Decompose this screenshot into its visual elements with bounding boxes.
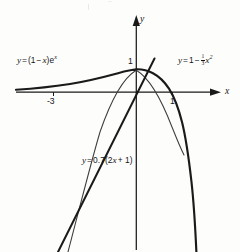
equation-label-line: y=0.7(2x+ 1) xyxy=(82,156,134,165)
equation-remainder: + 1) xyxy=(117,155,134,165)
math-figure: y x -3 1 1 y=(1−x)ex y=1−13x2 y=0.7(2x+ … xyxy=(0,0,240,252)
equation-label-parabola: y=1−13x2 xyxy=(178,54,213,66)
equation-minus: − xyxy=(194,55,201,65)
equation-exponent: x xyxy=(54,54,57,60)
equation-equals: = xyxy=(21,55,28,65)
x-tick-label-minus3: -3 xyxy=(47,97,55,106)
y-axis-label: y xyxy=(140,14,144,24)
x-tick-label-1: 1 xyxy=(170,97,175,106)
plot-canvas xyxy=(0,0,240,252)
equation-label-exponential: y=(1−x)ex xyxy=(17,54,57,65)
equation-open-paren: (1 xyxy=(28,55,36,65)
x-axis-label: x xyxy=(225,86,229,96)
equation-equals: = xyxy=(182,55,189,65)
equation-equals: = xyxy=(86,155,93,165)
y-axis xyxy=(133,15,140,250)
equation-coefficient: 0.7(2 xyxy=(93,155,113,165)
y-tick-label-1: 1 xyxy=(128,57,133,66)
equation-exponent: 2 xyxy=(209,54,212,60)
